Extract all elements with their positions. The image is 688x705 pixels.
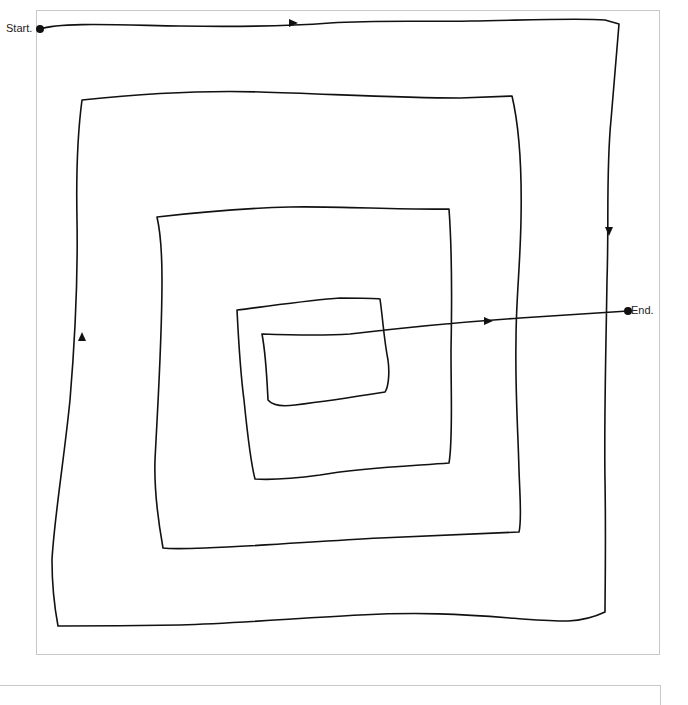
arrow-down-icon	[605, 227, 613, 236]
end-label: End.	[631, 304, 654, 316]
arrow-up-icon	[78, 332, 86, 341]
arrow-right-icon	[484, 317, 493, 325]
start-dot	[36, 25, 44, 33]
spiral-path	[40, 19, 628, 626]
start-label: Start.	[6, 22, 32, 34]
